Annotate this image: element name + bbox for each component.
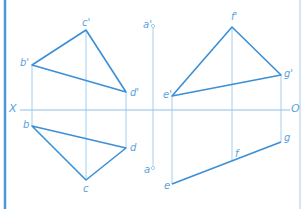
label-b: b [23, 120, 29, 130]
axis-label-o: O [291, 104, 300, 114]
label-c: c [83, 184, 89, 194]
label-f-prime: f' [231, 12, 237, 22]
label-c-prime: c' [82, 18, 90, 28]
label-d-prime: d' [130, 88, 139, 98]
label-g: g [284, 133, 290, 143]
triangle-efg-front-view [172, 27, 281, 96]
projection-diagram: X O b' c' d' b c d a' a e' f' g' e f g [0, 0, 305, 209]
triangle-bcd-front-view [32, 30, 126, 92]
point-a-marker [151, 166, 154, 169]
label-a-prime: a' [143, 20, 152, 30]
line-efg-top-view [172, 142, 281, 184]
label-a: a [144, 165, 150, 175]
triangle-bcd-top-view [32, 126, 126, 180]
label-b-prime: b' [20, 58, 29, 68]
label-f: f [235, 149, 239, 159]
axis-label-x: X [9, 104, 17, 114]
label-d: d [130, 143, 136, 153]
diagram-drawing [0, 0, 305, 209]
label-e: e [164, 181, 170, 191]
label-g-prime: g' [284, 69, 293, 79]
label-e-prime: e' [163, 90, 172, 100]
